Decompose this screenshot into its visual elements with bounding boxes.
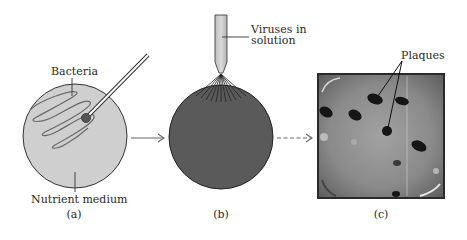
bacteria-label: Bacteria xyxy=(51,65,99,78)
nutrient-medium-label: Nutrient medium xyxy=(31,193,128,206)
viruses-label-line2: solution xyxy=(251,34,296,47)
light-spot xyxy=(433,168,439,174)
arrow-a-to-b xyxy=(131,134,164,142)
arrow-b-to-c xyxy=(277,134,312,142)
pipette-icon xyxy=(215,15,227,73)
panel-c: Plaques (c) xyxy=(317,49,445,221)
panel-b: Viruses in solution (b) xyxy=(169,15,307,221)
caption-b: (b) xyxy=(213,208,229,221)
caption-a: (a) xyxy=(66,208,81,221)
light-spot xyxy=(320,133,328,141)
virus-plaque-assay-figure: Bacteria Nutrient medium (a) xyxy=(0,0,467,240)
plaques-label: Plaques xyxy=(401,49,445,62)
plaque xyxy=(392,191,400,197)
plaque xyxy=(393,160,401,166)
inoculating-loop-icon xyxy=(82,114,91,123)
panel-a: Bacteria Nutrient medium (a) xyxy=(23,55,148,221)
plaque xyxy=(382,126,392,136)
caption-c: (c) xyxy=(374,208,389,221)
plaque-photo xyxy=(319,75,443,197)
light-spot xyxy=(351,139,357,145)
